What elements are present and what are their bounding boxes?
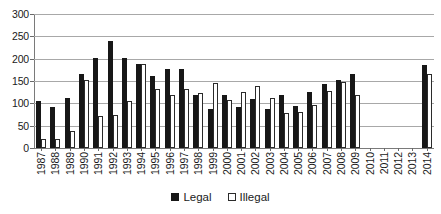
y-tick-label: 150 <box>12 75 29 87</box>
bar-group <box>63 14 77 148</box>
x-label-cell: 2006 <box>305 150 319 196</box>
x-label-cell: 2014 <box>420 150 434 196</box>
x-tick-label: 1998 <box>192 152 204 175</box>
x-tick-label: 1990 <box>78 152 90 175</box>
x-label-cell: 2008 <box>334 150 348 196</box>
x-label-cell: 2005 <box>291 150 305 196</box>
x-tick-label: 1988 <box>49 152 61 175</box>
bar-illegal-1991 <box>98 116 103 148</box>
x-axis-baseline <box>34 148 434 149</box>
x-tick-mark <box>227 148 228 151</box>
bar-illegal-2014 <box>427 74 432 148</box>
x-label-cell: 1987 <box>34 150 48 196</box>
bar-illegal-1990 <box>84 80 89 148</box>
bar-group <box>263 14 277 148</box>
legend-item-illegal: Illegal <box>228 191 270 203</box>
x-tick-mark <box>170 148 171 151</box>
bar-group <box>348 14 362 148</box>
x-tick-label: 2003 <box>264 152 276 175</box>
x-tick-label: 1997 <box>178 152 190 175</box>
x-tick-mark <box>298 148 299 151</box>
x-label-cell: 2004 <box>277 150 291 196</box>
bar-chart: 300 250 200 150 100 50 0 198719881989199… <box>0 0 441 214</box>
bar-illegal-2003 <box>270 98 275 148</box>
x-tick-mark <box>241 148 242 151</box>
bar-group <box>334 14 348 148</box>
bar-group <box>248 14 262 148</box>
bar-group <box>148 14 162 148</box>
legend-item-legal: Legal <box>171 191 211 203</box>
filled-square-icon <box>171 193 179 201</box>
x-tick-label: 2004 <box>278 152 290 175</box>
bar-illegal-2004 <box>284 113 289 148</box>
x-tick-mark <box>41 148 42 151</box>
x-tick-label: 2007 <box>321 152 333 175</box>
x-tick-mark <box>284 148 285 151</box>
bar-group <box>77 14 91 148</box>
x-tick-label: 2002 <box>249 152 261 175</box>
x-tick-label: 2008 <box>335 152 347 175</box>
x-tick-mark <box>213 148 214 151</box>
x-tick-label: 1999 <box>207 152 219 175</box>
x-tick-label: 1993 <box>121 152 133 175</box>
bar-group <box>377 14 391 148</box>
x-label-cell: 1994 <box>134 150 148 196</box>
bar-illegal-1994 <box>141 64 146 148</box>
bar-group <box>320 14 334 148</box>
x-tick-mark <box>398 148 399 151</box>
legend: Legal Illegal <box>0 191 441 203</box>
x-tick-label: 1992 <box>107 152 119 175</box>
x-tick-label: 2000 <box>221 152 233 175</box>
x-tick-mark <box>127 148 128 151</box>
x-label-cell: 1989 <box>63 150 77 196</box>
x-tick-mark <box>113 148 114 151</box>
x-label-cell: 1997 <box>177 150 191 196</box>
x-label-cell: 2007 <box>320 150 334 196</box>
x-label-cell: 1999 <box>205 150 219 196</box>
x-tick-label: 1989 <box>64 152 76 175</box>
x-label-cell: 2013 <box>405 150 419 196</box>
x-tick-mark <box>427 148 428 151</box>
x-tick-mark <box>355 148 356 151</box>
x-tick-label: 1996 <box>164 152 176 175</box>
legend-label: Legal <box>183 191 211 203</box>
x-tick-label: 2001 <box>235 152 247 175</box>
bar-group <box>163 14 177 148</box>
bar-group <box>277 14 291 148</box>
bar-group <box>405 14 419 148</box>
x-tick-label: 2010 <box>364 152 376 175</box>
bar-group <box>220 14 234 148</box>
x-tick-mark <box>255 148 256 151</box>
bar-group <box>205 14 219 148</box>
plot-area <box>34 14 434 148</box>
x-tick-label: 2012 <box>392 152 404 175</box>
x-tick-label: 1987 <box>35 152 47 175</box>
x-tick-mark <box>312 148 313 151</box>
x-label-cell: 1995 <box>148 150 162 196</box>
y-axis-tick-labels: 300 250 200 150 100 50 0 <box>0 0 34 148</box>
x-label-cell: 2011 <box>377 150 391 196</box>
bar-illegal-2000 <box>227 100 232 148</box>
x-label-cell: 2012 <box>391 150 405 196</box>
x-label-cell: 1998 <box>191 150 205 196</box>
bar-group <box>105 14 119 148</box>
x-tick-label: 1991 <box>92 152 104 175</box>
x-tick-mark <box>412 148 413 151</box>
bar-group <box>391 14 405 148</box>
x-tick-label: 1994 <box>135 152 147 175</box>
bar-illegal-2009 <box>355 95 360 148</box>
y-tick-label: 100 <box>12 97 29 109</box>
x-tick-label: 2009 <box>349 152 361 175</box>
x-tick-mark <box>55 148 56 151</box>
x-label-cell: 1988 <box>48 150 62 196</box>
bar-illegal-1989 <box>70 131 75 148</box>
bar-illegal-1993 <box>127 101 132 148</box>
x-tick-label: 2011 <box>378 152 390 174</box>
bar-illegal-2006 <box>312 105 317 148</box>
x-label-cell: 2003 <box>263 150 277 196</box>
x-label-cell: 2002 <box>248 150 262 196</box>
x-label-cell: 1991 <box>91 150 105 196</box>
y-tick-label: 300 <box>12 8 29 20</box>
bar-illegal-2005 <box>298 112 303 148</box>
x-tick-mark <box>98 148 99 151</box>
